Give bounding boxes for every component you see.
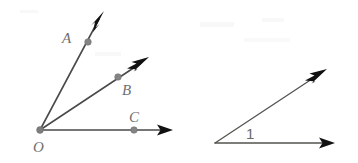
vertex-point-o-dot [37, 127, 44, 134]
label-vertex-o: O [33, 139, 44, 155]
point-a-dot [85, 39, 92, 46]
figure-root: A B C O 1 [0, 0, 358, 163]
figure-background [0, 0, 358, 163]
label-angle-one: 1 [246, 125, 254, 142]
angle-figure-svg: A B C O 1 [0, 0, 358, 163]
label-point-b: B [122, 82, 131, 98]
point-b-dot [115, 74, 122, 81]
label-point-c: C [129, 109, 140, 125]
point-c-dot [131, 127, 138, 134]
label-point-a: A [61, 30, 72, 46]
